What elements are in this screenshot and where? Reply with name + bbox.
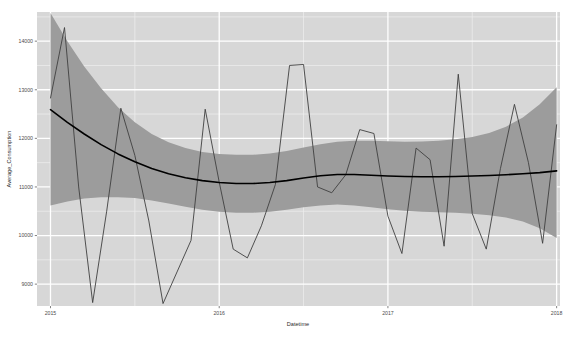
x-axis-tick-label: 2017 xyxy=(382,310,394,316)
y-axis-tick-label: 12000 xyxy=(19,135,34,141)
x-axis-tick-label: 2018 xyxy=(551,310,563,316)
chart-plot: 90001000011000120001300014000 2015201620… xyxy=(0,0,578,345)
y-axis-tick-label: 11000 xyxy=(19,184,33,190)
y-axis-tick-label: 9000 xyxy=(21,281,33,287)
x-axis-tick-label: 2015 xyxy=(45,310,57,316)
y-axis-tick-label: 13000 xyxy=(19,87,34,93)
x-axis-title: Datetime xyxy=(287,321,309,327)
y-axis-tick-label: 10000 xyxy=(19,232,34,238)
y-axis-title: Average_Consumption xyxy=(6,131,12,188)
chart-container: 90001000011000120001300014000 2015201620… xyxy=(0,0,578,345)
x-axis-tick-label: 2016 xyxy=(213,310,225,316)
y-axis-tick-label: 14000 xyxy=(19,38,34,44)
